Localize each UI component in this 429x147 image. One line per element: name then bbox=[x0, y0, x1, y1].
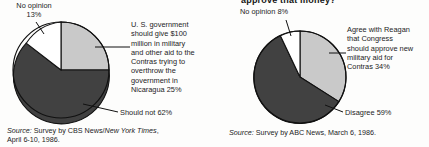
left-source: Source: Survey by CBS News/New York Time… bbox=[7, 126, 212, 145]
right-source: Source: Survey by ABC News, March 6, 198… bbox=[229, 128, 429, 137]
right-chart-panel: approve that money? No opinion 8% Agree … bbox=[215, 0, 429, 147]
left-source-publication: New York Times bbox=[104, 126, 156, 135]
left-label-should-not: Should not 62% bbox=[120, 108, 215, 117]
left-chart-panel: No opinion 13% U. S. government should g… bbox=[0, 0, 215, 147]
right-source-body: Survey by ABC News, March 6, 1986. bbox=[256, 128, 376, 137]
left-source-date: April 6-10, 1986. bbox=[7, 135, 212, 144]
right-pie-chart bbox=[215, 0, 429, 147]
left-source-body-a: Survey by CBS News/ bbox=[34, 126, 105, 135]
left-source-comma: , bbox=[157, 126, 159, 135]
right-source-word: Source: bbox=[229, 128, 254, 137]
right-label-disagree: Disagree 59% bbox=[345, 108, 429, 117]
right-label-agree: Agree with Reagan that Congress should a… bbox=[347, 25, 429, 71]
left-label-aid: U. S. government should give $100 millio… bbox=[131, 20, 215, 94]
left-slice-aid bbox=[61, 22, 109, 70]
left-label-no-opinion: No opinion 13% bbox=[2, 1, 66, 19]
right-label-no-opinion: No opinion 8% bbox=[240, 7, 350, 16]
left-source-word: Source: bbox=[7, 126, 32, 135]
